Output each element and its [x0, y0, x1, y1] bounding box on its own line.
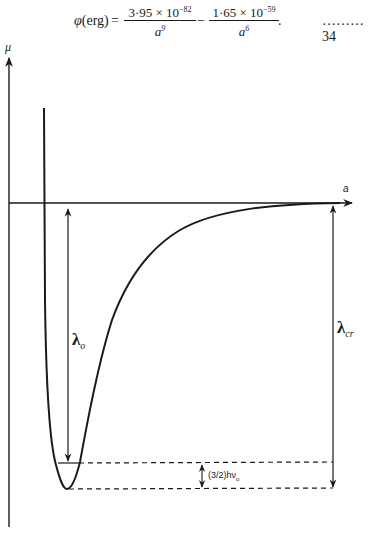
zero-point-subscript: o — [236, 476, 239, 482]
potential-curve — [44, 108, 340, 489]
zero-point-dashed-line — [79, 462, 333, 463]
lambdacr-subscript: cr — [345, 328, 353, 339]
y-axis-label: μ — [5, 40, 11, 55]
potential-energy-diagram — [0, 0, 375, 533]
lambda0-label: λo — [72, 330, 85, 351]
lambda0-subscript: o — [80, 340, 85, 351]
lambdacr-label: λcr — [337, 318, 354, 339]
zero-point-text: (3/2)hν — [208, 470, 236, 480]
minimum-dashed-line — [69, 488, 333, 489]
zero-point-energy-label: (3/2)hνo — [208, 470, 239, 482]
x-axis-label: a — [343, 183, 349, 194]
